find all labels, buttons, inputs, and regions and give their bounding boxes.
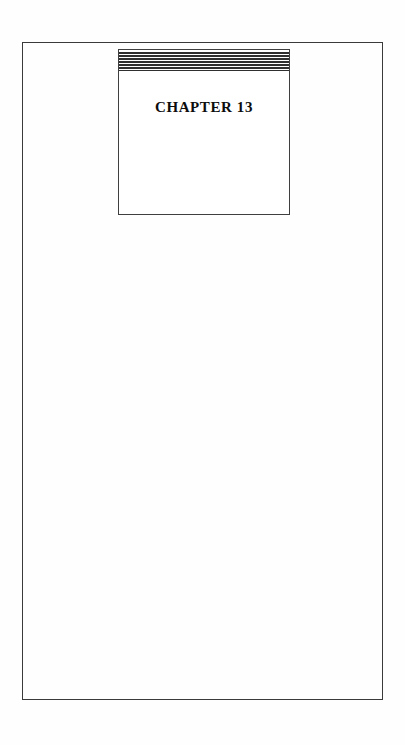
chapter-title: CHAPTER 13 [119,99,289,116]
chapter-heading-box: CHAPTER 13 [118,49,290,215]
rule-line [119,64,289,66]
page-body [23,215,382,699]
rule-line [119,67,289,69]
rule-line [119,58,289,60]
rule-line [119,61,289,63]
page-frame: CHAPTER 13 [22,42,383,700]
decorative-rule-band [119,51,289,75]
rule-line [119,55,289,57]
rule-line [119,52,289,54]
rule-line [119,70,289,71]
scanned-sheet: CHAPTER 13 [0,0,405,745]
